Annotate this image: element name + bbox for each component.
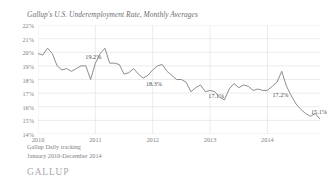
y-axis: 22%21%20%19%18%17%16%15%14% xyxy=(0,25,34,134)
y-tick-label: 19% xyxy=(22,62,34,69)
y-tick-label: 16% xyxy=(22,103,34,110)
y-tick-label: 15% xyxy=(22,117,34,124)
y-tick-label: 21% xyxy=(22,35,34,42)
source-line-2: January 2010-December 2014 xyxy=(27,152,102,161)
source-note: Gallup Daily tracking January 2010-Decem… xyxy=(27,143,102,160)
x-tick-label: 2013 xyxy=(204,136,217,143)
data-point-label: 15.1% xyxy=(311,108,327,115)
y-tick-label: 20% xyxy=(22,49,34,56)
source-line-1: Gallup Daily tracking xyxy=(27,143,102,152)
data-point-label: 18.3% xyxy=(146,80,162,87)
x-tick-label: 2014 xyxy=(261,136,274,143)
data-point-label: 19.2% xyxy=(85,53,101,60)
y-tick-label: 17% xyxy=(22,90,34,97)
data-point-label: 17.1% xyxy=(208,91,224,98)
chart-title: Gallup's U.S. Underemployment Rate, Mont… xyxy=(27,10,198,19)
x-tick-label: 2010 xyxy=(32,136,45,143)
chart-plot-svg xyxy=(38,25,320,134)
x-tick-label: 2012 xyxy=(146,136,159,143)
plot-area xyxy=(38,25,320,134)
y-tick-label: 22% xyxy=(22,22,34,29)
chart-figure: Gallup's U.S. Underemployment Rate, Mont… xyxy=(0,0,327,181)
data-point-label: 17.2% xyxy=(272,91,288,98)
underemployment-rate-line xyxy=(38,48,320,119)
gallup-logo: GALLUP xyxy=(27,167,69,177)
x-tick-label: 2011 xyxy=(89,136,101,143)
y-tick-label: 18% xyxy=(22,76,34,83)
